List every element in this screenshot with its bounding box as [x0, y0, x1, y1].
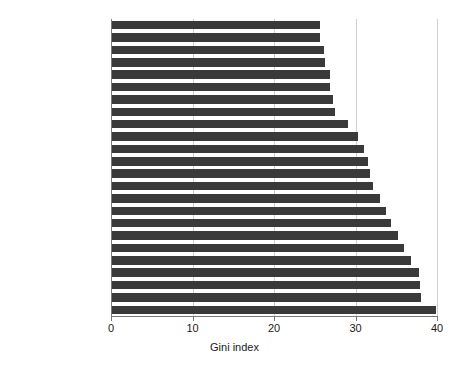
- x-tick-mark-10: [193, 316, 194, 321]
- bar-row: Slovenia: [111, 19, 437, 31]
- gini-index-bar-chart: SloveniaUkraineBelarusCzech RepublicKoso…: [0, 0, 469, 369]
- bar-row: Belarus: [111, 44, 437, 56]
- bar-moldova: [111, 108, 335, 116]
- x-tick-label-40: 40: [431, 322, 443, 335]
- bar-estonia: [111, 194, 380, 202]
- bar-row: Russian Federation: [111, 291, 437, 303]
- x-tick-mark-30: [356, 316, 357, 321]
- bar-row: Kosovo: [111, 69, 437, 81]
- bar-poland: [111, 157, 368, 165]
- x-tick-label-30: 30: [349, 322, 361, 335]
- bar-armenia: [111, 182, 373, 190]
- bar-row: Hungary: [111, 130, 437, 142]
- bar-czech-republic: [111, 58, 325, 66]
- bar-montenegro: [111, 169, 370, 177]
- bar-row: North Macedonia: [111, 229, 437, 241]
- bar-row: Montenegro: [111, 168, 437, 180]
- bar-row: Croatia: [111, 143, 437, 155]
- y-axis-line: [111, 19, 112, 317]
- bar-row: Tajikistan: [111, 205, 437, 217]
- bar-row: Serbia: [111, 304, 437, 316]
- bar-row: Latvia: [111, 217, 437, 229]
- bar-tajikistan: [111, 207, 386, 215]
- bar-row: Ukraine: [111, 31, 437, 43]
- bar-belarus: [111, 46, 324, 54]
- bar-slovenia: [111, 21, 320, 29]
- bar-croatia: [111, 145, 364, 153]
- bar-slovak-republic: [111, 83, 330, 91]
- x-tick-mark-0: [111, 316, 112, 321]
- x-tick-label-0: 0: [108, 322, 114, 335]
- bar-row: Kazakhstan: [111, 93, 437, 105]
- bar-north-macedonia: [111, 231, 398, 239]
- x-tick-label-10: 10: [186, 322, 198, 335]
- x-tick-mark-20: [274, 316, 275, 321]
- bar-russian-federation: [111, 293, 421, 301]
- plot-area: SloveniaUkraineBelarusCzech RepublicKoso…: [111, 19, 437, 316]
- bar-lithuania: [111, 281, 420, 289]
- bar-row: Czech Republic: [111, 56, 437, 68]
- bar-georgia: [111, 256, 411, 264]
- bar-row: Romania: [111, 242, 437, 254]
- bar-kosovo: [111, 70, 330, 78]
- gridline-40: [437, 19, 438, 316]
- bar-row: Kyrgyz Republic: [111, 118, 437, 130]
- bar-row: Estonia: [111, 192, 437, 204]
- bar-kazakhstan: [111, 95, 333, 103]
- bar-latvia: [111, 219, 391, 227]
- bar-row: Georgia: [111, 254, 437, 266]
- bar-row: Slovak Republic: [111, 81, 437, 93]
- x-tick-label-20: 20: [268, 322, 280, 335]
- bar-romania: [111, 244, 404, 252]
- bar-row: Bulgaria: [111, 267, 437, 279]
- x-axis-title: Gini index: [0, 341, 469, 353]
- bar-hungary: [111, 132, 358, 140]
- bar-row: Lithuania: [111, 279, 437, 291]
- bar-bulgaria: [111, 268, 419, 276]
- bar-row: Moldova: [111, 106, 437, 118]
- bar-kyrgyz-republic: [111, 120, 348, 128]
- bar-serbia: [111, 306, 436, 314]
- bar-ukraine: [111, 33, 320, 41]
- bar-row: Armenia: [111, 180, 437, 192]
- bar-row: Poland: [111, 155, 437, 167]
- x-tick-mark-40: [437, 316, 438, 321]
